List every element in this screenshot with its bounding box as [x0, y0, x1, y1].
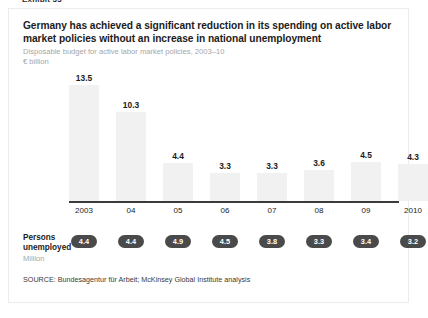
bar-value-label: 3.3 — [257, 161, 287, 171]
unemployment-pill: 4.5 — [212, 235, 238, 248]
x-axis-line — [69, 201, 399, 203]
bar — [351, 162, 381, 201]
x-axis-tick-label: 08 — [304, 206, 334, 215]
chart-card: Germany has achieved a significant reduc… — [8, 8, 409, 303]
bar-value-label: 3.3 — [210, 161, 240, 171]
bar — [69, 85, 99, 201]
page-title: Germany has achieved a significant reduc… — [23, 19, 395, 45]
bar — [304, 170, 334, 201]
exhibit-header: Exhibit 33 — [22, 0, 62, 3]
unemployment-pill-row: 4.44.44.94.53.83.33.43.2 — [23, 235, 397, 253]
unemployment-pill: 4.4 — [118, 235, 144, 248]
bar-column: 4.4 — [163, 67, 193, 201]
bar — [210, 173, 240, 201]
x-axis-tick-label: 09 — [351, 206, 381, 215]
persons-units-label: Million — [23, 254, 45, 263]
bar-value-label: 4.5 — [351, 150, 381, 160]
x-axis-tick-label: 04 — [116, 206, 146, 215]
unemployment-pill: 4.9 — [165, 235, 191, 248]
bar-chart-plot: 13.510.34.43.33.33.64.54.3 — [23, 67, 397, 201]
source-note: SOURCE: Bundesagentur für Arbeit; McKins… — [23, 275, 250, 284]
bar-value-label: 4.3 — [398, 152, 428, 162]
unemployment-pill: 3.2 — [400, 235, 426, 248]
x-axis-tick-label: 05 — [163, 206, 193, 215]
bar-column: 4.5 — [351, 67, 381, 201]
bar-value-label: 4.4 — [163, 151, 193, 161]
unemployment-pill: 3.4 — [353, 235, 379, 248]
bar-value-label: 3.6 — [304, 158, 334, 168]
unemployment-pill: 3.8 — [259, 235, 285, 248]
x-axis-labels: 20030405060708092010 — [23, 206, 397, 220]
x-axis-tick-label: 2010 — [398, 206, 428, 215]
bar-column: 10.3 — [116, 67, 146, 201]
bar-column: 3.3 — [210, 67, 240, 201]
chart-subtitle: Disposable budget for active labor marke… — [23, 47, 395, 58]
x-axis-tick-label: 07 — [257, 206, 287, 215]
unemployment-pill: 4.4 — [71, 235, 97, 248]
bar-column: 3.3 — [257, 67, 287, 201]
x-axis-tick-label: 2003 — [69, 206, 99, 215]
bar — [257, 173, 287, 201]
x-axis-tick-label: 06 — [210, 206, 240, 215]
bar — [398, 164, 428, 201]
bar — [116, 112, 146, 201]
bar-value-label: 13.5 — [69, 73, 99, 83]
bar — [163, 163, 193, 201]
chart-units-label: € billion — [23, 57, 49, 68]
unemployment-pill: 3.3 — [306, 235, 332, 248]
bar-column: 4.3 — [398, 67, 428, 201]
bar-column: 3.6 — [304, 67, 334, 201]
bar-value-label: 10.3 — [116, 100, 146, 110]
bar-column: 13.5 — [69, 67, 99, 201]
